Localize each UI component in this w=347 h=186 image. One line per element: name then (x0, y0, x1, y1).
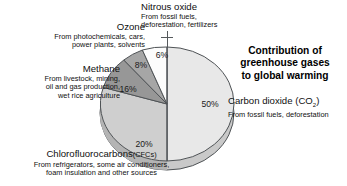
chart-canvas: 50% 20% 16% 8% 6% Nitrous oxide From fos… (0, 0, 347, 186)
callout-co2-name-post: ) (316, 95, 319, 106)
callout-methane-desc-3: wet rice agriculture (2, 92, 120, 101)
callout-carbon-dioxide-title: Carbon dioxide (CO2) (228, 96, 329, 111)
callout-ozone: Ozone From photochemicals, cars, power p… (4, 22, 145, 50)
leader-line-nitrous-oxide-vertical (167, 31, 168, 47)
chart-title-line-2: greenhouse gases (225, 57, 345, 69)
callout-nitrous-oxide: Nitrous oxide From fossil fuels, defores… (141, 2, 217, 30)
slice-label-ozone: 8% (135, 60, 148, 70)
callout-cfcs-desc-2: foam insulation and other sources (0, 169, 203, 178)
callout-co2-name-pre: Carbon dioxide (CO (228, 95, 313, 106)
callout-cfcs-title: Chlorofluorocarbons(CFCs) (0, 149, 203, 161)
callout-cfcs-abbrev: (CFCs) (133, 150, 157, 159)
chart-title-line-1: Contribution of (225, 45, 345, 57)
chart-title-line-3: to global warming (225, 70, 345, 82)
callout-methane: Methane From livestock, mining, oil and … (2, 64, 120, 100)
callout-ozone-title: Ozone (4, 22, 145, 33)
slice-label-co2: 50% (201, 99, 219, 109)
slice-label-methane: 16% (119, 84, 137, 94)
callout-carbon-dioxide: Carbon dioxide (CO2) From fossil fuels, … (228, 96, 329, 119)
callout-nitrous-oxide-desc-2: deforestation, fertilizers (141, 21, 217, 30)
callout-carbon-dioxide-desc-1: From fossil fuels, deforestation (228, 111, 329, 120)
callout-cfcs-name: Chlorofluorocarbons (46, 148, 132, 159)
slice-label-nitrous-oxide: 6% (156, 50, 169, 60)
callout-nitrous-oxide-title: Nitrous oxide (141, 2, 217, 13)
callout-ozone-desc-2: power plants, solvents (4, 41, 145, 50)
callout-methane-title: Methane (2, 64, 120, 75)
leader-line-nitrous-oxide-crossbar (161, 37, 173, 38)
chart-title: Contribution of greenhouse gases to glob… (225, 45, 345, 82)
callout-cfcs: Chlorofluorocarbons(CFCs) From refrigera… (0, 149, 203, 178)
slice-label-cfcs: 20% (135, 139, 153, 149)
